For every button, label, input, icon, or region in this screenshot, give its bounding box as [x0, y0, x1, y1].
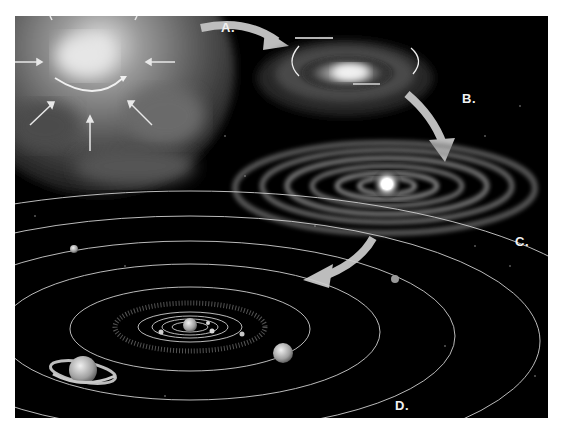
arrow-b-to-c-icon: [407, 94, 443, 144]
planet-icon: [70, 245, 78, 253]
planet-icon: [240, 332, 245, 337]
arrow-c-to-d-icon: [325, 238, 373, 276]
panel-c-protoplanetary-disk: [235, 143, 535, 233]
planet-icon: [210, 329, 215, 334]
panel-label-c: C.: [515, 234, 529, 249]
figure-artwork: [15, 16, 548, 418]
gas-giant-icon: [273, 343, 293, 363]
solar-system-formation-figure: A. B. C. D.: [15, 16, 548, 418]
panel-label-d: D.: [395, 398, 409, 413]
planet-icon: [391, 275, 399, 283]
planet-icon: [159, 330, 164, 335]
ringed-planet-icon: [49, 356, 117, 388]
panel-label-b: B.: [462, 91, 476, 106]
planet-icon: [206, 321, 210, 325]
panel-a-nebula: [15, 16, 235, 196]
panel-b-rotating-disk: [257, 38, 433, 116]
panel-label-a: A.: [221, 20, 235, 35]
sun-icon: [183, 318, 197, 332]
